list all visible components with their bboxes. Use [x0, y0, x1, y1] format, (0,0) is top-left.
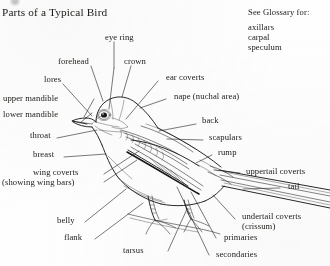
- leader-breast: [64, 154, 106, 157]
- label-rump: rump: [218, 148, 237, 157]
- leader-primaries: [191, 192, 216, 238]
- glossary-item-axillars: axillars: [248, 23, 274, 32]
- bird-anatomy-diagram-page: Parts of a Typical Bird See Glossary for…: [0, 0, 330, 266]
- label-throat: throat: [30, 131, 51, 140]
- label-wing-coverts: wing coverts: [33, 168, 78, 177]
- leader-throat: [57, 130, 97, 138]
- leader-nape: [140, 99, 166, 108]
- leader-scapulars: [167, 139, 203, 140]
- leader-belly: [85, 189, 126, 222]
- label-secondaries: secondaries: [216, 250, 257, 259]
- leader-tarsus: [168, 209, 187, 251]
- label-eye-ring: eye ring: [105, 33, 134, 42]
- leader-lores: [63, 84, 92, 116]
- leader-forehead: [91, 66, 103, 101]
- label-belly: belly: [57, 216, 75, 225]
- bird-wing: [120, 124, 203, 194]
- label-undertail-coverts: undertail coverts: [242, 212, 301, 221]
- label-wing-coverts-sub: (showing wing bars): [2, 178, 75, 187]
- page-title: Parts of a Typical Bird: [2, 7, 107, 19]
- leader-crown: [122, 66, 131, 97]
- glossary-item-speculum: speculum: [248, 43, 282, 52]
- label-undertail-coverts-sub: (crissum): [242, 222, 275, 231]
- label-back: back: [202, 116, 219, 125]
- label-lores: lores: [44, 75, 61, 84]
- label-tarsus: tarsus: [123, 246, 144, 255]
- label-nape: nape (nuchal area): [174, 92, 239, 101]
- bird-legs-and-feet: [128, 196, 220, 234]
- label-tail: tail: [288, 182, 299, 191]
- label-uppertail-coverts: uppertail coverts: [246, 167, 305, 176]
- label-lower-mandible: lower mandible: [3, 110, 58, 119]
- label-flank: flank: [64, 233, 82, 242]
- belly-feather-lines: [108, 156, 165, 203]
- leader-back: [159, 124, 196, 131]
- label-ear-coverts: ear coverts: [166, 73, 205, 82]
- label-scapulars: scapulars: [209, 133, 242, 142]
- leader-undertail-coverts: [213, 195, 235, 219]
- label-breast: breast: [33, 150, 54, 159]
- glossary-item-carpal: carpal: [248, 33, 270, 42]
- label-crown: crown: [124, 57, 146, 66]
- leader-upper-mandible: [84, 99, 94, 117]
- label-forehead: forehead: [58, 57, 89, 66]
- label-upper-mandible: upper mandible: [3, 94, 58, 103]
- label-primaries: primaries: [224, 233, 257, 242]
- glossary-heading: See Glossary for:: [248, 8, 309, 17]
